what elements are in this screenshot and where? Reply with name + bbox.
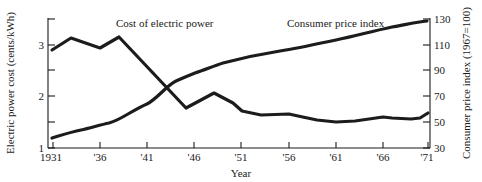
y-axis-title: Electric power cost (cents/kWh): [4, 12, 17, 154]
right-axis-tick-labels: 30 50 70 90 110 130: [434, 13, 451, 154]
plot-frame: [48, 18, 430, 148]
x-tick-label-1941: '41: [141, 151, 154, 163]
left-axis-tick-labels: 1 2 3: [39, 39, 45, 154]
annotation-cost-of-electric-power: Cost of electric power: [116, 17, 214, 29]
bottom-axis-ticks: [53, 142, 428, 148]
x-tick-label-1951: '51: [235, 151, 248, 163]
x-tick-label-1936: '36: [94, 151, 107, 163]
x-tick-label-1946: '46: [188, 151, 201, 163]
right-axis-ticks: [423, 19, 430, 148]
left-tick-label-3: 3: [39, 39, 45, 51]
right-tick-label-50: 50: [434, 116, 446, 128]
chart-svg: 1 2 3 30 50 70 90 110 130 1931 '36 '41 '…: [0, 0, 482, 182]
left-axis-ticks: [48, 19, 55, 148]
annotation-consumer-price-index: Consumer price index: [287, 17, 385, 29]
right-tick-label-30: 30: [434, 142, 446, 154]
x-axis-title: Year: [231, 167, 252, 179]
series-line-consumer-price-index: [52, 21, 427, 138]
right-tick-label-110: 110: [434, 39, 451, 51]
right-tick-label-130: 130: [434, 13, 451, 25]
x-tick-label-1971: '71: [421, 151, 434, 163]
x-tick-label-1931: 1931: [40, 151, 62, 163]
chart-figure: 1 2 3 30 50 70 90 110 130 1931 '36 '41 '…: [0, 0, 482, 182]
left-tick-label-2: 2: [39, 90, 45, 102]
right-tick-label-70: 70: [434, 90, 446, 102]
y2-axis-title: Consumer price index (1967=100): [460, 7, 473, 159]
series-line-electric-power-cost: [52, 37, 428, 122]
right-tick-label-90: 90: [434, 64, 446, 76]
x-tick-label-1956: '56: [283, 151, 296, 163]
bottom-axis-tick-labels: 1931 '36 '41 '46 '51 '56 '61 '66 '71: [40, 151, 433, 163]
x-tick-label-1961: '61: [330, 151, 343, 163]
x-tick-label-1966: '66: [377, 151, 390, 163]
